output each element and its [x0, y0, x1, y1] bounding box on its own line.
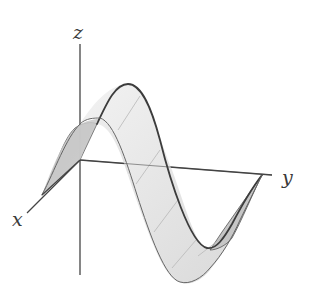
x-axis-label: x: [12, 210, 23, 229]
figure: z y x: [0, 0, 312, 296]
y-axis-front: [80, 160, 272, 175]
y-axis-label: y: [282, 168, 293, 187]
z-axis-label: z: [73, 23, 83, 42]
surface-left-underside: [42, 118, 100, 195]
surface-ribbon: [80, 84, 262, 284]
surface-plot: [0, 0, 312, 296]
